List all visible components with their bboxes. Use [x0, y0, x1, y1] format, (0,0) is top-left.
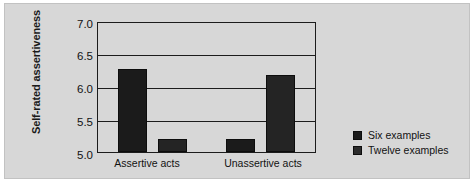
bar — [158, 139, 187, 152]
legend-item: Twelve examples — [353, 144, 465, 156]
legend-label: Six examples — [368, 129, 430, 141]
bar — [266, 75, 295, 152]
legend-label: Twelve examples — [368, 144, 449, 156]
legend-item: Six examples — [353, 129, 465, 141]
y-axis-title: Self-rated assertiveness — [30, 0, 42, 147]
y-tick-label: 6.0 — [59, 84, 93, 96]
x-tick-label: Unassertive acts — [208, 157, 318, 169]
legend-swatch-icon — [353, 146, 362, 155]
bar — [118, 69, 147, 152]
chart-legend: Six examples Twelve examples — [353, 129, 465, 159]
y-tick-label: 6.5 — [59, 51, 93, 63]
bar-group-container — [98, 23, 315, 152]
figure-panel: Self-rated assertiveness 7.0 6.5 6.0 5.5… — [4, 3, 470, 179]
x-tick-label: Assertive acts — [97, 157, 197, 169]
y-axis-tick-labels: 7.0 6.5 6.0 5.5 5.0 — [55, 4, 93, 180]
y-tick-label: 7.0 — [59, 19, 93, 31]
legend-swatch-icon — [353, 131, 362, 140]
bar — [226, 139, 255, 152]
y-tick-label: 5.0 — [59, 150, 93, 162]
y-tick-label: 5.5 — [59, 117, 93, 129]
plot-area — [97, 22, 316, 153]
